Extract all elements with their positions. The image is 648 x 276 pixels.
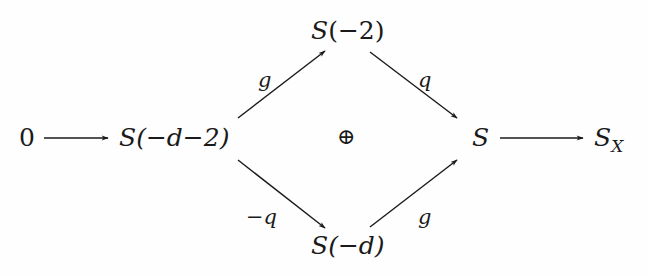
node-top-base: S [311,16,328,45]
node-bottom-base: S [311,231,328,260]
node-quotient-sub: X [611,136,623,156]
node-target-base: S [472,123,489,152]
node-bottom: S(−d) [311,233,385,258]
node-center-direct-sum: ⊕ [337,126,355,148]
node-quotient: SX [594,125,623,155]
node-source-base: S [119,123,136,152]
node-target: S [472,125,489,150]
node-top: S(−2) [311,18,385,43]
label-bottom-to-target: g [418,207,431,228]
direct-sum-symbol: ⊕ [337,124,355,149]
node-source-arg: (−d−2) [136,123,229,152]
node-source: S(−d−2) [119,125,229,150]
node-bottom-arg: (−d) [328,231,384,260]
node-zero: 0 [19,125,35,150]
node-zero-text: 0 [19,123,35,152]
node-quotient-base: S [594,123,611,152]
label-source-to-bottom: −q [246,207,277,228]
arrow-bottom-to-target [370,160,457,227]
arrow-source-to-top [238,51,325,118]
commutative-diagram: 0 S(−d−2) S(−2) S(−d) ⊕ S SX g q −q g [0,0,648,276]
node-top-arg: (−2) [328,16,384,45]
label-source-to-top: g [258,70,271,91]
label-top-to-target: q [418,70,431,91]
arrow-top-to-target [370,52,457,118]
